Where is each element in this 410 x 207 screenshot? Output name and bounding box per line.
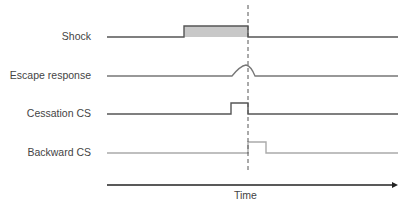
shock-fill xyxy=(184,26,248,37)
timing-diagram xyxy=(0,0,410,207)
backward-cs-trace xyxy=(107,142,398,153)
arrow-right-icon xyxy=(392,182,398,188)
escape-response-trace xyxy=(107,65,398,76)
cessation-cs-trace xyxy=(107,103,398,114)
time-axis-label: Time xyxy=(234,189,257,201)
shock-trace xyxy=(107,26,398,37)
